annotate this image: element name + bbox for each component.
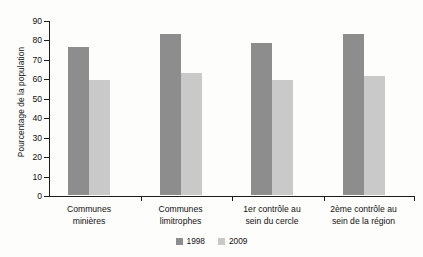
bar-2009 [181, 73, 202, 196]
y-tick-label: 50 [32, 92, 42, 106]
bar-group [232, 20, 324, 195]
y-tick-label: 90 [32, 14, 42, 28]
x-tick-mark [141, 196, 142, 201]
x-category-label-line: sein de la région [309, 216, 419, 228]
bar-group [141, 20, 233, 195]
bar-1998 [68, 47, 89, 195]
y-tick-label: 70 [32, 53, 42, 67]
y-tick-label: 20 [32, 150, 42, 164]
bar-1998 [251, 43, 272, 195]
y-tick-label: 60 [32, 72, 42, 86]
bar-2009 [272, 80, 293, 195]
y-tick-label: 10 [32, 170, 42, 184]
x-tick-mark [232, 196, 233, 201]
bar-chart: Pourcentage de la population 01020304050… [0, 0, 423, 257]
x-category-label-line: 2ème contrôle au [309, 204, 419, 216]
legend-label: 2009 [229, 236, 247, 246]
bar-2009 [364, 76, 385, 195]
x-tick-mark [414, 196, 415, 201]
y-tick-label: 80 [32, 33, 42, 47]
bar-1998 [343, 34, 364, 195]
bar-group [49, 20, 141, 195]
y-axis-title: Pourcentage de la population [14, 4, 28, 200]
y-tick-label: 0 [37, 189, 42, 203]
bar-1998 [160, 34, 181, 195]
legend-label: 1998 [187, 236, 205, 246]
plot-area: 0102030405060708090 [49, 21, 415, 196]
y-tick-label: 40 [32, 111, 42, 125]
y-tick-label: 30 [32, 131, 42, 145]
bar-2009 [89, 80, 110, 195]
chart-legend: 19982009 [0, 236, 423, 246]
legend-swatch-icon [176, 238, 183, 245]
y-tick-mark [44, 196, 49, 197]
x-tick-mark [324, 196, 325, 201]
legend-swatch-icon [218, 238, 225, 245]
bar-group [324, 20, 416, 195]
legend-item: 1998 [176, 236, 205, 246]
x-category-label: 2ème contrôle ausein de la région [309, 204, 419, 227]
legend-item: 2009 [218, 236, 247, 246]
